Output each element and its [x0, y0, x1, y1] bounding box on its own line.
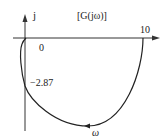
- real-axis-arrow-icon: [152, 36, 160, 41]
- direction-arrow-icon: [84, 124, 90, 129]
- origin-label: 0: [39, 43, 44, 53]
- direction-label: ω: [92, 128, 99, 138]
- imag-intercept-label: −2.87: [30, 78, 53, 88]
- real-intercept-label: 10: [140, 25, 150, 35]
- imag-axis-label: j: [33, 10, 36, 21]
- imaginary-axis-arrow-icon: [23, 14, 28, 22]
- plot-title: [G(jω)]: [77, 11, 107, 21]
- nyquist-plot: [0, 0, 168, 140]
